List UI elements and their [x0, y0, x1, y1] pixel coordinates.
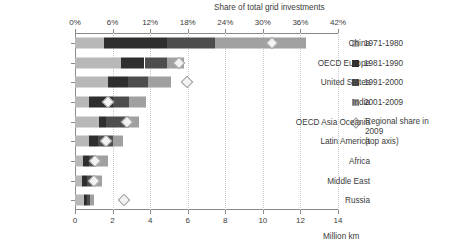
- bottom-axis-tick: [188, 210, 189, 214]
- category-label: Africa: [349, 156, 370, 165]
- bar-segment-1991-2000: [145, 57, 168, 68]
- category-label: United States: [321, 78, 370, 87]
- bar-segment-1991-2000: [167, 37, 215, 48]
- bar-segment-1991-2000: [128, 77, 149, 88]
- category-label: Russia: [345, 196, 370, 205]
- bar-oecd-europe[interactable]: [75, 57, 184, 68]
- bar-segment-2001-2009: [148, 77, 171, 88]
- top-axis-tick-label: 24%: [217, 18, 233, 27]
- regional-share-marker[interactable]: [181, 76, 194, 89]
- bottom-axis-tick: [338, 210, 339, 214]
- top-axis-tick-label: 18%: [180, 18, 196, 27]
- bar-segment-1981-1990: [108, 77, 128, 88]
- gridline: [225, 33, 227, 210]
- bottom-axis-tick: [150, 210, 151, 214]
- bar-segment-2001-2009: [90, 195, 93, 206]
- legend-label-regional-share: Regional share in 2009: [365, 117, 429, 136]
- bar-russia[interactable]: [75, 195, 94, 206]
- bar-segment-1971-1980: [75, 37, 104, 48]
- top-axis-tick: [300, 29, 301, 33]
- top-axis-tick-label: 42%: [330, 18, 346, 27]
- bottom-axis-tick-label: 2: [110, 216, 114, 225]
- bar-segment-1971-1980: [75, 96, 89, 107]
- bottom-axis-tick: [75, 210, 76, 214]
- top-axis-tick: [225, 29, 226, 33]
- category-label: OECD Asia Oceania: [296, 117, 370, 126]
- category-label: India: [352, 97, 370, 106]
- top-axis-tick: [150, 29, 151, 33]
- bottom-axis-title: Million km: [323, 232, 359, 241]
- bottom-axis-tick-label: 4: [148, 216, 152, 225]
- bar-segment-1991-2000: [113, 96, 129, 107]
- bottom-axis-tick-label: 0: [73, 216, 77, 225]
- bottom-axis-tick-label: 8: [223, 216, 227, 225]
- top-axis-tick: [263, 29, 264, 33]
- bottom-axis-tick-label: 10: [258, 216, 267, 225]
- bottom-axis-tick-label: 14: [334, 216, 343, 225]
- bar-segment-1971-1980: [75, 136, 89, 147]
- top-axis-tick: [188, 29, 189, 33]
- top-axis-tick: [338, 29, 339, 33]
- top-axis-tick: [75, 29, 76, 33]
- top-axis-tick-label: 6%: [107, 18, 119, 27]
- bar-segment-1981-1990: [99, 116, 106, 127]
- grid-investments-chart: Share of total grid investments 0%6%12%1…: [0, 0, 449, 249]
- top-axis-tick-label: 30%: [255, 18, 271, 27]
- bar-segment-1981-1990: [104, 37, 167, 48]
- bar-segment-2001-2009: [129, 96, 147, 107]
- bar-segment-2001-2009: [215, 37, 306, 48]
- category-label: Middle East: [327, 176, 370, 185]
- bar-segment-1971-1980: [75, 155, 83, 166]
- top-axis-tick: [113, 29, 114, 33]
- bar-united-states[interactable]: [75, 77, 171, 88]
- bar-segment-1971-1980: [75, 57, 121, 68]
- bottom-axis-tick: [300, 210, 301, 214]
- category-label: Latin America: [320, 137, 370, 146]
- bottom-axis-tick: [263, 210, 264, 214]
- bar-segment-1981-1990: [89, 136, 97, 147]
- top-axis-tick-label: 12%: [142, 18, 158, 27]
- bottom-axis-tick: [225, 210, 226, 214]
- top-axis-tick-label: 36%: [292, 18, 308, 27]
- bar-segment-1971-1980: [75, 195, 84, 206]
- top-axis-tick-label: 0%: [69, 18, 81, 27]
- bottom-axis-tick-label: 6: [185, 216, 189, 225]
- category-label: OECD Europe: [318, 58, 370, 67]
- regional-share-marker[interactable]: [117, 194, 130, 207]
- bottom-axis-tick-label: 12: [296, 216, 305, 225]
- top-axis-title: Share of total grid investments: [214, 3, 325, 12]
- bottom-axis-tick: [113, 210, 114, 214]
- bar-segment-1981-1990: [121, 57, 144, 68]
- gridline: [188, 33, 190, 210]
- gridline: [263, 33, 265, 210]
- bar-segment-1971-1980: [75, 116, 99, 127]
- bar-segment-1971-1980: [75, 77, 108, 88]
- category-label: China: [349, 38, 370, 47]
- bar-segment-2001-2009: [113, 136, 123, 147]
